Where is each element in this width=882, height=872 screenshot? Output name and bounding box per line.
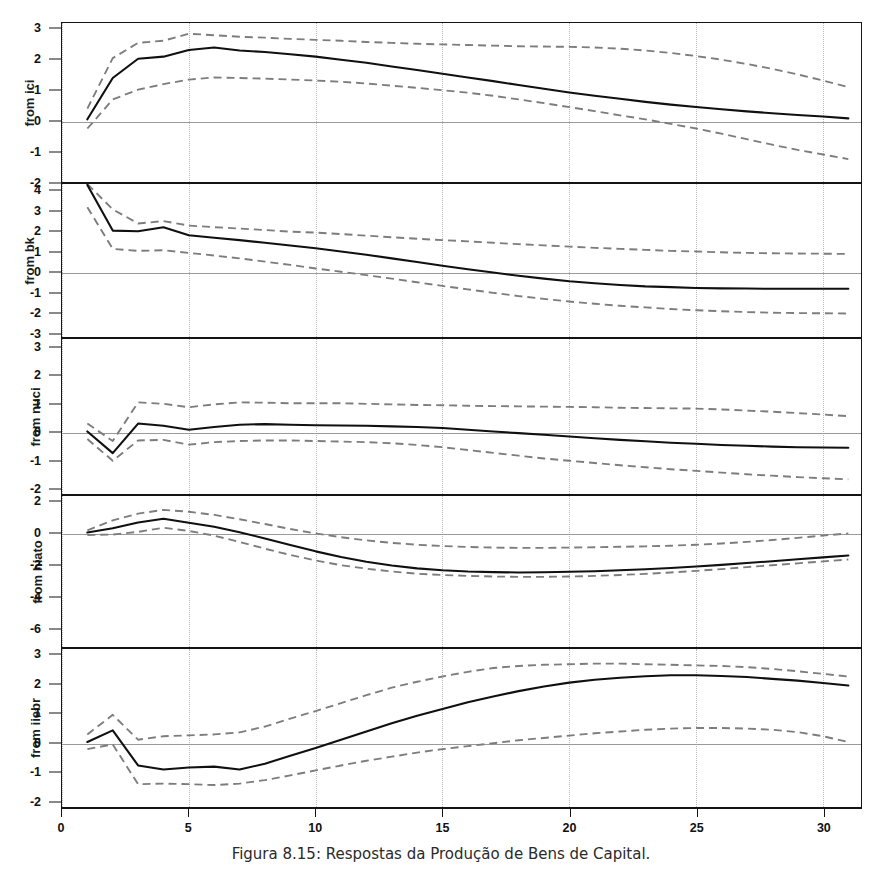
y-tick-label: 2 bbox=[34, 677, 41, 691]
x-tick-mark bbox=[824, 808, 825, 817]
x-axis-line bbox=[61, 808, 862, 809]
panel-from-nuci: from nuci3210-1-2 bbox=[0, 338, 882, 495]
y-tick-mark bbox=[49, 565, 61, 566]
y-tick-mark bbox=[49, 653, 61, 654]
y-tick-label: 1 bbox=[34, 83, 41, 97]
y-tick-mark bbox=[49, 251, 61, 252]
y-tick-mark bbox=[49, 628, 61, 629]
x-tick-mark bbox=[697, 808, 698, 817]
y-tick-mark bbox=[49, 432, 61, 433]
y-tick-mark bbox=[49, 59, 61, 60]
x-tick-label: 0 bbox=[58, 821, 65, 835]
x-tick-mark bbox=[315, 808, 316, 817]
series-lower-band bbox=[87, 728, 848, 785]
series-canvas bbox=[62, 339, 861, 494]
y-tick-label: -2 bbox=[30, 795, 41, 809]
series-lower-band bbox=[87, 77, 848, 159]
y-tick-label: 4 bbox=[34, 183, 41, 197]
x-tick-mark bbox=[188, 808, 189, 817]
y-tick-mark bbox=[49, 90, 61, 91]
y-tick-label: 0 bbox=[34, 526, 41, 540]
y-tick-label: -1 bbox=[30, 286, 41, 300]
series-upper-band bbox=[87, 184, 848, 254]
series-canvas bbox=[62, 649, 861, 807]
plot-area bbox=[61, 22, 862, 183]
panel-from-bk: from bk43210-1-2-3 bbox=[0, 183, 882, 338]
y-tick-label: 3 bbox=[34, 204, 41, 218]
y-tick-label: 0 bbox=[34, 425, 41, 439]
x-tick-mark bbox=[61, 808, 62, 817]
y-tick-mark bbox=[49, 489, 61, 490]
y-tick-label: -1 bbox=[30, 765, 41, 779]
y-tick-label: 1 bbox=[34, 397, 41, 411]
y-tick-mark bbox=[49, 152, 61, 153]
series-response bbox=[87, 675, 848, 769]
y-tick-label: 0 bbox=[34, 114, 41, 128]
y-tick-label: -6 bbox=[30, 622, 41, 636]
y-tick-label: 2 bbox=[34, 224, 41, 238]
y-tick-label: -4 bbox=[30, 590, 41, 604]
panel-from-ici: from ici3210-1-2 bbox=[0, 22, 882, 183]
y-tick-label: 0 bbox=[34, 265, 41, 279]
y-tick-mark bbox=[49, 190, 61, 191]
y-tick-label: 3 bbox=[34, 647, 41, 661]
y-tick-label: 2 bbox=[34, 494, 41, 508]
y-tick-mark bbox=[49, 292, 61, 293]
plot-area bbox=[61, 183, 862, 338]
series-canvas bbox=[62, 496, 861, 647]
series-lower-band bbox=[87, 528, 848, 577]
y-tick-mark bbox=[49, 501, 61, 502]
y-tick-label: 0 bbox=[34, 736, 41, 750]
x-tick-label: 5 bbox=[185, 821, 192, 835]
x-tick-mark bbox=[442, 808, 443, 817]
panel-from-hiato: from hiato20-2-4-6 bbox=[0, 495, 882, 648]
y-tick-mark bbox=[49, 772, 61, 773]
plot-area bbox=[61, 338, 862, 495]
x-axis: 051015202530 bbox=[61, 808, 862, 844]
y-tick-mark bbox=[49, 333, 61, 334]
y-tick-mark bbox=[49, 683, 61, 684]
series-response bbox=[87, 47, 848, 119]
series-canvas bbox=[62, 184, 861, 337]
y-tick-label: 3 bbox=[34, 340, 41, 354]
series-response bbox=[87, 519, 848, 573]
y-axis: 3210-1-2 bbox=[0, 648, 61, 808]
y-axis: 43210-1-2-3 bbox=[0, 183, 61, 338]
y-tick-mark bbox=[49, 210, 61, 211]
y-tick-label: 2 bbox=[34, 52, 41, 66]
y-tick-mark bbox=[49, 403, 61, 404]
plot-area bbox=[61, 648, 862, 808]
y-tick-label: 3 bbox=[34, 21, 41, 35]
y-tick-mark bbox=[49, 742, 61, 743]
y-tick-mark bbox=[49, 597, 61, 598]
y-tick-label: -2 bbox=[30, 306, 41, 320]
y-tick-mark bbox=[49, 346, 61, 347]
y-tick-mark bbox=[49, 460, 61, 461]
y-tick-label: -2 bbox=[30, 558, 41, 572]
y-tick-mark bbox=[49, 533, 61, 534]
y-axis: 20-2-4-6 bbox=[0, 495, 61, 648]
x-tick-label: 30 bbox=[817, 821, 831, 835]
y-axis: 3210-1-2 bbox=[0, 338, 61, 495]
y-tick-mark bbox=[49, 313, 61, 314]
y-tick-mark bbox=[49, 121, 61, 122]
y-tick-label: 2 bbox=[34, 368, 41, 382]
y-tick-mark bbox=[49, 272, 61, 273]
series-upper-band bbox=[87, 34, 848, 109]
y-tick-mark bbox=[49, 28, 61, 29]
y-tick-label: -1 bbox=[30, 145, 41, 159]
y-tick-label: -1 bbox=[30, 454, 41, 468]
series-lower-band bbox=[87, 207, 848, 313]
series-response bbox=[87, 185, 848, 289]
x-tick-label: 25 bbox=[690, 821, 704, 835]
y-tick-mark bbox=[49, 802, 61, 803]
x-tick-mark bbox=[570, 808, 571, 817]
series-upper-band bbox=[87, 510, 848, 548]
y-tick-label: 1 bbox=[34, 245, 41, 259]
figure-container: from ici3210-1-2from bk43210-1-2-3from n… bbox=[0, 0, 882, 872]
series-response bbox=[87, 424, 848, 454]
y-tick-mark bbox=[49, 713, 61, 714]
series-canvas bbox=[62, 23, 861, 182]
y-tick-mark bbox=[49, 231, 61, 232]
x-tick-label: 10 bbox=[308, 821, 322, 835]
